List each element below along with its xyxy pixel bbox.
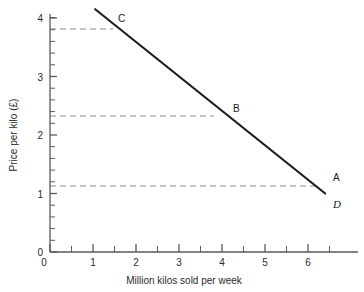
x-tick-label-6: 6 (305, 257, 311, 268)
y-tick-label-2: 2 (37, 130, 43, 141)
point-label-a: A (333, 172, 340, 183)
x-tick-label-0: 0 (41, 257, 47, 268)
x-axis-minor-ticks (72, 246, 330, 252)
x-tick-label-5: 5 (262, 257, 268, 268)
y-tick-label-1: 1 (37, 189, 43, 200)
y-tick-label-4: 4 (37, 13, 43, 24)
x-tick-label-4: 4 (219, 257, 225, 268)
axis-spines (50, 14, 358, 252)
y-tick-label-3: 3 (37, 72, 43, 83)
point-label-b: B (233, 103, 240, 114)
y-axis-title: Price per kilo (£) (8, 99, 19, 172)
x-tick-label-1: 1 (90, 257, 96, 268)
x-axis-major-ticks (50, 244, 308, 252)
x-tick-label-2: 2 (133, 257, 139, 268)
y-axis-minor-ticks (50, 18, 55, 241)
x-axis-title: Million kilos sold per week (126, 275, 243, 286)
chart-canvas: 0 1 2 3 4 0 1 (0, 0, 364, 292)
x-axis-tick-labels: 0 1 2 3 4 5 6 (41, 257, 311, 268)
x-tick-label-3: 3 (176, 257, 182, 268)
demand-curve-line (95, 9, 325, 193)
curve-label-d: D (332, 198, 341, 210)
point-label-c: C (118, 13, 125, 24)
demand-curve-figure: 0 1 2 3 4 0 1 (0, 0, 364, 292)
y-axis-tick-labels: 0 1 2 3 4 (37, 13, 43, 258)
guide-lines (50, 29, 320, 186)
